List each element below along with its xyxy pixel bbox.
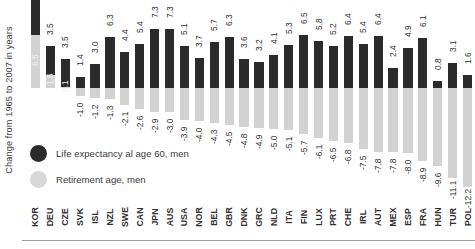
legend-label-retirement-age: Retirement age, men — [56, 174, 146, 185]
bar-retirement-age — [314, 88, 323, 138]
x-axis-tick-cze: CZE — [58, 196, 72, 238]
x-axis-tick-aut: AUT — [371, 196, 385, 238]
bar-retirement-age — [418, 88, 427, 161]
x-axis-tick-bel: BEL — [207, 196, 221, 238]
bar-retirement-age — [299, 88, 308, 134]
bar-group: 1.6-12.2 — [463, 0, 472, 195]
bar-group: 5.4-7.5 — [359, 0, 368, 195]
bar-retirement-age — [239, 88, 248, 127]
bar-group: 3.1-11.1 — [448, 0, 457, 195]
bar-life-expectancy — [254, 62, 263, 88]
bar-retirement-age — [284, 88, 293, 130]
legend-label-life-expectancy: Life expectancy al age 60, men — [56, 148, 189, 159]
bar-life-expectancy — [284, 45, 293, 88]
x-axis-tick-esp: ESP — [401, 196, 415, 238]
bar-group: 6.4-7.8 — [374, 0, 383, 195]
x-axis-tick-deu: DEU — [43, 196, 57, 238]
bar-life-expectancy — [344, 36, 353, 88]
bar-life-expectancy — [165, 29, 174, 88]
bar-group: 4.9-8.0 — [403, 0, 412, 195]
x-axis-tick-isl: ISL — [88, 196, 102, 238]
bar-retirement-age — [180, 88, 189, 120]
x-axis-tick-tur: TUR — [446, 196, 460, 238]
x-axis-tick-jpn: JPN — [148, 196, 162, 238]
x-axis-tick-hun: HUN — [431, 196, 445, 238]
bar-retirement-age — [388, 88, 397, 152]
bar-group: 5.2-6.5 — [329, 0, 338, 195]
x-axis-tick-nzl: NZL — [103, 196, 117, 238]
bar-life-expectancy — [359, 44, 368, 88]
bar-life-expectancy — [448, 63, 457, 88]
bottom-divider — [22, 240, 475, 241]
bar-retirement-age — [254, 88, 263, 128]
chart-container: Change from 1965 to 2007 in years 7.56.5… — [0, 0, 475, 249]
bar-retirement-age — [135, 88, 144, 109]
bar-life-expectancy — [210, 42, 219, 88]
bar-retirement-age — [120, 88, 129, 105]
bar-group: 5.8-6.1 — [314, 0, 323, 195]
x-axis-tick-grc: GRC — [252, 196, 266, 238]
bar-retirement-age — [403, 88, 412, 153]
x-axis-tick-fin: FIN — [297, 196, 311, 238]
bar-life-expectancy — [388, 68, 397, 88]
bar-group: 0.8-9.6 — [433, 0, 442, 195]
legend-item-retirement-age: Retirement age, men — [30, 166, 290, 192]
x-axis-tick-nor: NOR — [192, 196, 206, 238]
bar-life-expectancy — [135, 44, 144, 88]
x-axis-tick-kor: KOR — [28, 196, 42, 238]
x-axis-tick-dnk: DNK — [237, 196, 251, 238]
bar-life-expectancy — [105, 37, 114, 88]
bar-retirement-age — [195, 88, 204, 121]
bar-life-expectancy — [374, 36, 383, 88]
x-axis-tick-ita: ITA — [282, 196, 296, 238]
x-axis-tick-prt: PRT — [326, 196, 340, 238]
chart-legend: Life expectancy al age 60, men Retiremen… — [30, 140, 290, 192]
bar-retirement-age — [433, 88, 442, 166]
bar-retirement-age — [359, 88, 368, 149]
bar-group: 2.4-7.8 — [388, 0, 397, 195]
bar-retirement-age — [165, 88, 174, 112]
bar-life-expectancy — [463, 75, 472, 88]
x-axis-tick-can: CAN — [133, 196, 147, 238]
bar-retirement-age — [105, 88, 114, 99]
bar-life-expectancy — [329, 46, 338, 88]
bar-retirement-age — [448, 88, 457, 178]
bar-group: 6.5-5.7 — [299, 0, 308, 195]
x-axis-tick-svk: SVK — [73, 196, 87, 238]
bar-life-expectancy — [90, 64, 99, 88]
bar-retirement-age — [150, 88, 159, 112]
bar-life-expectancy — [195, 58, 204, 88]
y-axis-title: Change from 1965 to 2007 in years — [0, 0, 18, 200]
bar-retirement-age — [210, 88, 219, 123]
x-axis-tick-gbr: GBR — [222, 196, 236, 238]
bar-life-expectancy — [403, 48, 412, 88]
bar-retirement-age — [374, 88, 383, 152]
legend-swatch-dark-circle-icon — [30, 145, 47, 162]
bar-retirement-age — [225, 88, 234, 125]
bar-life-expectancy — [299, 35, 308, 88]
bar-life-expectancy — [76, 77, 85, 88]
x-axis-tick-swe: SWE — [118, 196, 132, 238]
bar-life-expectancy — [180, 46, 189, 88]
bar-life-expectancy — [239, 59, 248, 88]
bar-retirement-age — [90, 88, 99, 98]
bar-life-expectancy — [120, 52, 129, 88]
x-axis-tick-nld: NLD — [267, 196, 281, 238]
y-axis-title-label: Change from 1965 to 2007 in years — [4, 26, 14, 173]
bar-retirement-age — [269, 88, 278, 129]
bar-retirement-age — [463, 88, 472, 187]
bar-retirement-age — [76, 88, 85, 96]
bar-life-expectancy — [269, 55, 278, 88]
x-axis-tick-pol: POL — [461, 196, 475, 238]
legend-swatch-light-circle-icon — [30, 171, 47, 188]
bar-life-expectancy — [31, 0, 40, 35]
x-axis-labels: KORDEUCZESVKISLNZLSWECANJPNAUSUSANORBELG… — [28, 196, 475, 238]
x-axis-tick-lux: LUX — [312, 196, 326, 238]
bar-life-expectancy — [433, 81, 442, 88]
legend-item-life-expectancy: Life expectancy al age 60, men — [30, 140, 290, 166]
bar-retirement-age — [344, 88, 353, 143]
bar-life-expectancy — [418, 38, 427, 88]
bar-life-expectancy — [314, 41, 323, 88]
bar-group: 6.1-8.9 — [418, 0, 427, 195]
bar-life-expectancy — [150, 29, 159, 88]
